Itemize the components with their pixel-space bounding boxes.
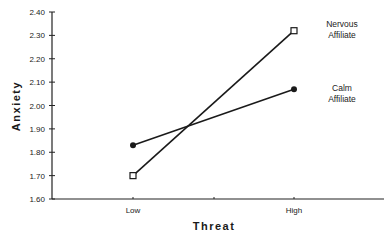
y-tick-label: 1.90 (29, 125, 45, 134)
legend-nervous-affiliate: Nervous Affiliate (326, 19, 358, 40)
y-tick-label: 1.70 (29, 172, 45, 181)
svg-text:Nervous: Nervous (326, 19, 358, 29)
series-line (133, 31, 294, 176)
y-tick-label: 1.80 (29, 148, 45, 157)
series-line (133, 89, 294, 145)
square-marker-icon (130, 173, 136, 179)
y-tick-label: 1.60 (29, 195, 45, 204)
x-axis: LowHigh (52, 197, 384, 215)
svg-text:Affiliate: Affiliate (328, 94, 356, 104)
interaction-line-chart: 1.601.701.801.902.002.102.202.302.40 Low… (0, 0, 384, 241)
y-axis: 1.601.701.801.902.002.102.202.302.40 (29, 8, 55, 204)
y-axis-title: Anxiety (10, 81, 22, 131)
dot-marker-icon (291, 86, 297, 92)
x-axis-title: Threat (193, 220, 236, 232)
square-marker-icon (291, 28, 297, 34)
y-tick-label: 2.10 (29, 78, 45, 87)
series-lines (130, 28, 297, 179)
legend-calm-affiliate: Calm Affiliate (328, 83, 356, 104)
y-tick-label: 2.40 (29, 8, 45, 17)
svg-text:Calm: Calm (332, 83, 352, 93)
x-tick-label: High (286, 206, 302, 215)
y-tick-label: 2.30 (29, 31, 45, 40)
dot-marker-icon (130, 142, 136, 148)
x-tick-label: Low (126, 206, 141, 215)
y-tick-label: 2.20 (29, 55, 45, 64)
svg-text:Affiliate: Affiliate (328, 30, 356, 40)
y-tick-label: 2.00 (29, 102, 45, 111)
